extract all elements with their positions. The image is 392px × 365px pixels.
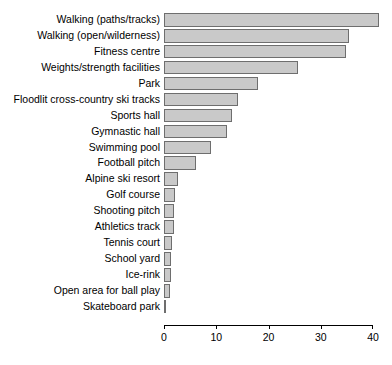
x-axis-tick-label: 30 <box>306 331 336 344</box>
category-label: Walking (open/wilderness) <box>37 29 160 43</box>
bar <box>164 188 175 202</box>
bar <box>164 125 227 139</box>
category-label: Tennis court <box>103 236 160 250</box>
bar <box>164 284 170 298</box>
bar <box>164 204 174 218</box>
bar <box>164 172 178 186</box>
chart-row: Tennis court <box>0 236 392 252</box>
chart-row: Gymnastic hall <box>0 125 392 141</box>
chart-row: Park <box>0 77 392 93</box>
bar-track <box>164 141 373 155</box>
bar-track <box>164 77 373 91</box>
category-label: Gymnastic hall <box>91 125 160 139</box>
bar <box>164 77 258 91</box>
category-label: Sports hall <box>110 109 160 123</box>
chart-row: Floodlit cross-country ski tracks <box>0 93 392 109</box>
chart-row: Football pitch <box>0 156 392 172</box>
chart-row: Athletics track <box>0 220 392 236</box>
bar-track <box>164 172 373 186</box>
x-axis-tick-label: 0 <box>149 331 179 344</box>
category-label: Football pitch <box>98 156 160 170</box>
bar <box>164 220 174 234</box>
bar-track <box>164 188 373 202</box>
category-label: Shooting pitch <box>93 204 160 218</box>
bar <box>164 141 211 155</box>
chart-row: Sports hall <box>0 109 392 125</box>
category-label: Walking (paths/tracks) <box>57 13 160 27</box>
bar-track <box>164 61 373 75</box>
bar <box>164 93 238 107</box>
bar-track <box>164 268 373 282</box>
category-label: Floodlit cross-country ski tracks <box>14 93 160 107</box>
chart-row: Swimming pool <box>0 141 392 157</box>
category-label: Athletics track <box>95 220 160 234</box>
bar <box>164 300 166 314</box>
bar <box>164 252 171 266</box>
bar-track <box>164 204 373 218</box>
bar-track <box>164 220 373 234</box>
chart-row: School yard <box>0 252 392 268</box>
chart-row: Walking (open/wilderness) <box>0 29 392 45</box>
bar-track <box>164 13 373 27</box>
bar-track <box>164 93 373 107</box>
bar <box>164 29 349 43</box>
x-axis-tick <box>321 325 322 329</box>
x-axis: 010203040 <box>164 325 373 355</box>
chart-row: Ice-rink <box>0 268 392 284</box>
bar-track <box>164 109 373 123</box>
category-label: Fitness centre <box>94 45 160 59</box>
bar-track <box>164 125 373 139</box>
chart-rows: Walking (paths/tracks)Walking (open/wild… <box>0 13 392 316</box>
chart-row: Golf course <box>0 188 392 204</box>
x-axis-tick <box>372 325 373 329</box>
category-label: Golf course <box>106 188 160 202</box>
bar <box>164 45 346 59</box>
category-label: Park <box>138 77 160 91</box>
category-label: Ice-rink <box>126 268 160 282</box>
category-label: School yard <box>105 252 160 266</box>
chart-row: Alpine ski resort <box>0 172 392 188</box>
bar-track <box>164 45 373 59</box>
x-axis-tick-label: 10 <box>201 331 231 344</box>
category-label: Weights/strength facilities <box>41 61 160 75</box>
category-label: Skateboard park <box>83 300 160 314</box>
bar-track <box>164 156 373 170</box>
bar <box>164 61 298 75</box>
bar-chart: Walking (paths/tracks)Walking (open/wild… <box>0 0 392 365</box>
x-axis-tick <box>269 325 270 329</box>
x-axis-tick-label: 20 <box>254 331 284 344</box>
bar <box>164 13 379 27</box>
chart-row: Fitness centre <box>0 45 392 61</box>
chart-row: Walking (paths/tracks) <box>0 13 392 29</box>
x-axis-tick <box>164 325 165 329</box>
chart-row: Weights/strength facilities <box>0 61 392 77</box>
bar-track <box>164 252 373 266</box>
chart-row: Shooting pitch <box>0 204 392 220</box>
bar <box>164 109 232 123</box>
x-axis-tick-label: 40 <box>358 331 388 344</box>
bar-track <box>164 236 373 250</box>
bar <box>164 236 172 250</box>
bar <box>164 156 196 170</box>
category-label: Alpine ski resort <box>85 172 160 186</box>
category-label: Swimming pool <box>89 141 160 155</box>
bar-track <box>164 300 373 314</box>
category-label: Open area for ball play <box>54 284 160 298</box>
bar-track <box>164 29 373 43</box>
bar-track <box>164 284 373 298</box>
x-axis-tick <box>216 325 217 329</box>
chart-row: Skateboard park <box>0 300 392 316</box>
chart-row: Open area for ball play <box>0 284 392 300</box>
bar <box>164 268 171 282</box>
